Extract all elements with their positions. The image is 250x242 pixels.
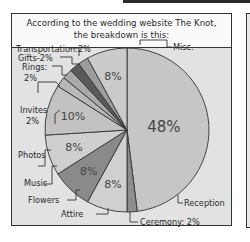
slice-percent-label: 8% <box>104 178 121 191</box>
pie-chart: 48%8%8%8%10%8% Transportation:2% Gifts-2… <box>0 0 250 242</box>
callout-attire: Attire <box>61 209 83 219</box>
callout-invites: Invites <box>20 105 47 115</box>
slice-percent-label: 10% <box>61 110 85 123</box>
callout-photos: Photos <box>18 150 46 160</box>
slice-percent-label: 48% <box>147 118 180 136</box>
pie-slices <box>45 48 209 212</box>
callout-rings-pct: 2% <box>24 73 37 83</box>
callout-rings: Rings: <box>22 62 47 72</box>
slice-percent-label: 8% <box>65 141 82 154</box>
callout-flowers: Flowers <box>28 195 59 205</box>
callout-ceremony: Ceremony: 2% <box>140 217 200 227</box>
callout-misc: Misc. <box>173 42 194 52</box>
callout-reception: Reception <box>184 198 225 208</box>
callout-music: Music <box>24 178 47 188</box>
slice-percent-label: 8% <box>104 70 121 83</box>
callout-invites-pct: 2% <box>26 116 39 126</box>
slice-percent-label: 8% <box>80 165 97 178</box>
